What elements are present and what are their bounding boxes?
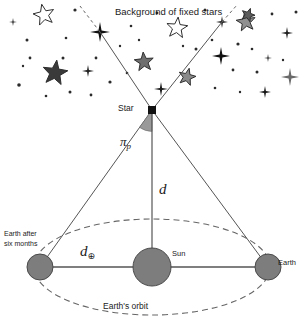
background-star-dot — [26, 39, 29, 42]
background-star-dot — [232, 69, 235, 72]
earth-orbit-label: Earth's orbit — [103, 301, 148, 311]
baseline-distance-label: d⊕ — [80, 243, 95, 261]
background-star-sparkle — [259, 86, 271, 98]
background-star-sparkle — [212, 47, 230, 65]
earth-six-months-line1: Earth after — [4, 230, 37, 237]
background-star-five-point — [43, 60, 67, 84]
sight-lines — [40, 5, 268, 267]
background-star-sparkle — [264, 54, 272, 62]
background-star-dot — [138, 39, 140, 41]
background-star-dot — [239, 91, 241, 93]
distance-d-label: d — [159, 181, 167, 198]
earth-after-six-months-label: Earth after six months — [4, 229, 37, 249]
background-star-dot — [65, 37, 68, 40]
sightline-left-solid — [40, 110, 152, 267]
background-star-dot — [73, 8, 76, 11]
background-star-dot — [62, 57, 65, 60]
background-star-dot — [119, 45, 121, 47]
background-star-dot — [195, 48, 198, 51]
background-star-sparkle — [9, 18, 17, 26]
earth-six-months-line2: six months — [4, 240, 37, 247]
background-star-dot — [130, 25, 133, 28]
star-apex-marker — [148, 106, 156, 114]
background-star-dot — [29, 57, 32, 60]
sightline-left-dashed-tip — [80, 6, 100, 32]
background-star-dot — [108, 80, 111, 83]
sun-body — [133, 248, 171, 286]
diagram-canvas — [0, 0, 303, 326]
sun-label: Sun — [172, 249, 185, 258]
sightline-right-dashed-tip — [222, 5, 237, 22]
background-star-sparkle — [82, 65, 94, 77]
background-star-dot — [295, 11, 298, 14]
baseline-subscript-earth-symbol: ⊕ — [88, 251, 96, 261]
baseline-symbol: d — [80, 243, 88, 259]
earth-body-left — [27, 254, 53, 280]
background-star-dot — [17, 83, 21, 87]
background-star-dot — [69, 91, 72, 94]
background-star-dot — [271, 13, 274, 16]
background-star-dot — [282, 59, 284, 61]
background-star-dot — [182, 45, 184, 47]
earth-label: Earth — [278, 258, 296, 267]
background-star-dot — [214, 87, 217, 90]
sightline-right-solid — [152, 110, 268, 267]
starfield-group — [9, 4, 299, 98]
background-star-five-point — [134, 52, 153, 71]
background-star-sparkle — [154, 82, 168, 96]
parallax-diagram: Background of fixed stars Star Sun Earth… — [0, 0, 303, 326]
star-label: Star — [118, 103, 134, 113]
sightline-left-extension — [100, 32, 152, 110]
background-star-dot — [251, 48, 254, 51]
background-star-dot — [22, 65, 24, 67]
background-star-sparkle — [281, 27, 293, 39]
background-star-dot — [256, 71, 259, 74]
background-star-five-point — [179, 68, 196, 85]
background-star-dot — [236, 42, 239, 45]
parallax-subscript: p — [127, 141, 132, 151]
background-star-five-point — [167, 17, 188, 37]
background-stars-label: Background of fixed stars — [115, 6, 222, 17]
parallax-angle-label: πp — [120, 134, 131, 151]
background-star-sparkle — [281, 68, 299, 86]
background-star-dot — [90, 94, 93, 97]
background-star-dot — [45, 95, 48, 98]
background-star-dot — [211, 39, 214, 42]
background-star-five-point — [33, 4, 53, 25]
background-star-dot — [95, 57, 98, 60]
sightline-right-extension — [152, 22, 222, 110]
